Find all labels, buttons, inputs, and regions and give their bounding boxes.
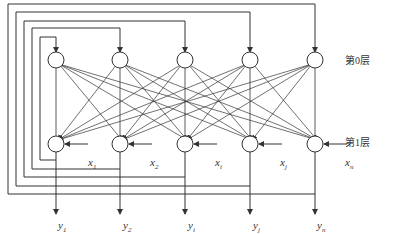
- weight-link: [187, 64, 312, 140]
- neuron-layer1: [242, 136, 258, 152]
- neuron-layer1: [112, 136, 128, 152]
- neuron-layer1: [307, 136, 323, 152]
- neuron-layer1: [48, 136, 64, 152]
- input-label-j: xj: [280, 157, 287, 171]
- input-label-n: xn: [345, 157, 353, 171]
- weight-link: [252, 64, 312, 140]
- weight-link: [253, 64, 317, 140]
- output-label-1: y1: [58, 220, 66, 234]
- weight-link: [59, 64, 122, 140]
- io-arrows: [56, 144, 347, 214]
- feedback-line: [8, 4, 315, 194]
- layer-1-label: 第1层: [345, 138, 370, 148]
- output-label-i: yi: [188, 220, 195, 234]
- input-label-2: x2: [150, 157, 158, 171]
- weight-link: [59, 64, 252, 140]
- feedback-lines: [8, 4, 315, 194]
- weight-link: [188, 64, 252, 140]
- weight-link: [122, 64, 312, 140]
- neuron-layer0: [242, 52, 258, 68]
- feedback-line: [32, 28, 120, 169]
- weight-link: [188, 64, 317, 140]
- neuron-layer0: [112, 52, 128, 68]
- neuron-layer1: [177, 136, 193, 152]
- input-label-1: x1: [88, 157, 96, 171]
- input-label-i: xi: [215, 157, 222, 171]
- weight-link: [123, 64, 252, 140]
- neuron-layer0: [177, 52, 193, 68]
- connection-links: [56, 64, 317, 140]
- network-diagram: [0, 0, 394, 234]
- weight-link: [59, 64, 187, 140]
- output-label-j: yj: [253, 220, 260, 234]
- neuron-layer0: [48, 52, 64, 68]
- neuron-layer0: [307, 52, 323, 68]
- layer-0-label: 第0层: [345, 56, 370, 66]
- output-label-2: y2: [123, 220, 131, 234]
- weight-link: [123, 64, 187, 140]
- output-label-n: yn: [317, 220, 325, 234]
